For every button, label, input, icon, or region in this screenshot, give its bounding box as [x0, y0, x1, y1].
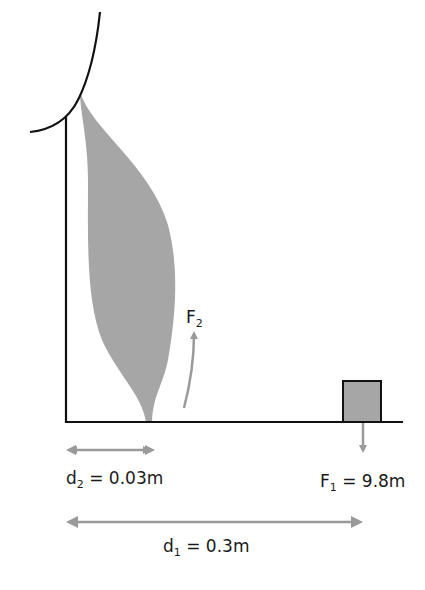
lever-diagram: F2 F1 = 9.8m d2 = 0.03m d1 = 0.3m — [0, 0, 425, 590]
f1-label: F1 = 9.8m — [320, 471, 405, 494]
d2-label: d2 = 0.03m — [66, 468, 163, 491]
f2-label: F2 — [186, 307, 203, 330]
d2-right-arrowhead-icon — [145, 445, 155, 455]
muscle-shape — [80, 92, 175, 422]
f2-arrow-icon — [184, 334, 194, 408]
d1-label: d1 = 0.3m — [163, 536, 249, 559]
d1-right-arrowhead-icon — [351, 516, 363, 528]
d1-left-arrowhead-icon — [66, 516, 78, 528]
weight-block — [343, 381, 381, 422]
d2-left-arrowhead-icon — [66, 445, 76, 455]
